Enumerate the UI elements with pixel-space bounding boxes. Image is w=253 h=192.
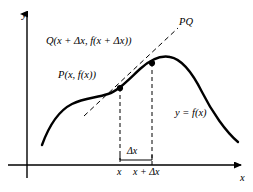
curve-equation-label: y = f(x) xyxy=(175,108,207,119)
point-q-label: Q(x + Δx, f(x + Δx)) xyxy=(46,36,131,47)
tick-label-x: x xyxy=(117,167,121,177)
point-p-marker xyxy=(117,85,123,91)
figure-canvas xyxy=(0,0,253,192)
point-p-label: P(x, f(x)) xyxy=(58,70,96,81)
y-axis-label: y xyxy=(22,10,27,21)
delta-x-label: Δx xyxy=(127,146,137,156)
tick-label-x-plus-delta-x: x + Δx xyxy=(133,167,160,177)
calculus-secant-line-figure: Q(x + Δx, f(x + Δx)) P(x, f(x)) PQ y = f… xyxy=(0,0,253,192)
point-q-marker xyxy=(149,60,155,66)
secant-line-label: PQ xyxy=(179,17,193,28)
x-axis-label: x xyxy=(240,173,245,184)
